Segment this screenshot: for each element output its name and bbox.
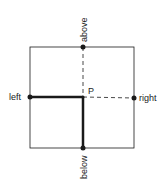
direction-diagram: P left right above below (0, 0, 165, 189)
label-above: above (79, 17, 89, 42)
label-left: left (9, 92, 22, 102)
label-right: right (139, 93, 157, 103)
dot-right (132, 96, 137, 101)
label-below: below (79, 155, 89, 179)
dashed-line-right (83, 97, 134, 98)
dot-below (81, 146, 86, 151)
label-p: P (88, 86, 94, 96)
dot-left (28, 95, 33, 100)
dot-above (81, 45, 86, 50)
dot-center-p (82, 96, 85, 99)
